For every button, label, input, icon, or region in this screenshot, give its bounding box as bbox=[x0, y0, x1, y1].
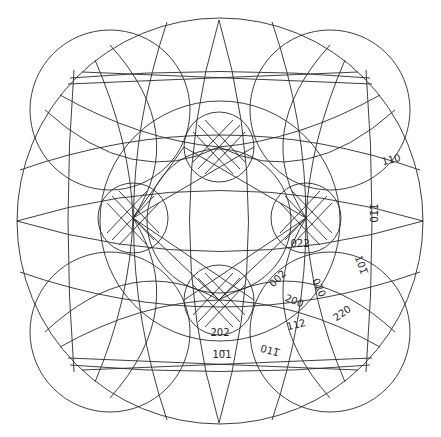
stereographic-projection-diagram: 110 1̄1̅0 101̅ 022 002 020 200 220 112 2… bbox=[0, 0, 441, 437]
label-202: 202 bbox=[210, 327, 229, 338]
label-011bar: 011̅ bbox=[259, 343, 281, 359]
label-110: 110 bbox=[381, 152, 402, 167]
label-10bar1: 10̅1 bbox=[212, 349, 231, 360]
label-220: 220 bbox=[331, 303, 353, 323]
projection-svg: 110 1̄1̅0 101̅ 022 002 020 200 220 112 2… bbox=[0, 0, 441, 437]
label-1bar1bar0: 1̄1̅0 bbox=[368, 203, 379, 222]
label-022: 022 bbox=[290, 238, 309, 249]
great-circle-arcs bbox=[17, 20, 423, 423]
label-200: 200 bbox=[283, 292, 305, 309]
label-020: 020 bbox=[310, 277, 328, 299]
pole-circles bbox=[98, 112, 341, 335]
primitive-circle bbox=[17, 18, 423, 424]
label-101bar: 101̅ bbox=[353, 254, 370, 277]
